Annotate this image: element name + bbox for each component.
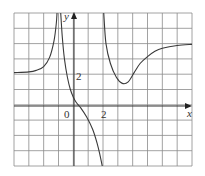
- origin-label: 0: [64, 108, 70, 120]
- grid: [14, 13, 192, 166]
- graph-canvas: y x 0 2 2: [0, 0, 205, 176]
- x-axis-label: x: [186, 107, 192, 119]
- function-graph: y x 0 2 2: [0, 0, 205, 176]
- y-tick-label-2: 2: [76, 70, 82, 82]
- left-branch-curve: [14, 13, 57, 73]
- x-tick-label-2: 2: [101, 108, 107, 120]
- y-axis-label: y: [63, 10, 69, 22]
